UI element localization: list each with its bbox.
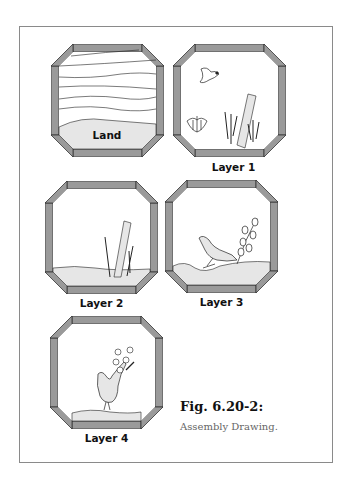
- layer-4-label: Layer 4: [50, 432, 163, 444]
- panel-layer-1: [173, 44, 286, 157]
- panel-layer-4: [50, 316, 163, 429]
- layer-2-label: Layer 2: [45, 297, 158, 309]
- panel-layer-3: [165, 180, 278, 293]
- layer-4-drawing: [50, 316, 163, 429]
- land-label: Land: [93, 129, 122, 141]
- layer-3-drawing: [165, 180, 278, 293]
- panel-land: Land: [51, 44, 164, 157]
- figure-subtitle: Assembly Drawing.: [180, 421, 278, 432]
- layer-1-drawing: [173, 44, 286, 157]
- layer-3-label: Layer 3: [165, 296, 278, 308]
- panel-layer-2: [45, 181, 158, 294]
- land-drawing: Land: [51, 44, 164, 157]
- layer-1-label: Layer 1: [177, 161, 290, 173]
- layer-2-drawing: [45, 181, 158, 294]
- figure-title: Fig. 6.20-2:: [180, 399, 263, 414]
